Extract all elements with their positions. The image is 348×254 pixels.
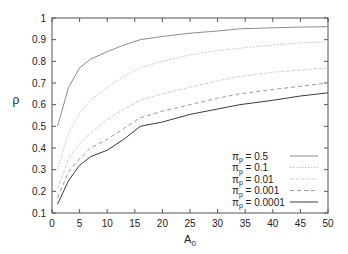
x-tick-label: 50 — [322, 218, 334, 229]
series-line-4 — [58, 93, 329, 205]
x-tick-label: 40 — [267, 218, 279, 229]
legend-value: = 0.1 — [243, 162, 269, 173]
plot-frame — [52, 18, 328, 213]
x-tick-label: 10 — [102, 218, 114, 229]
series-line-3 — [58, 83, 329, 198]
y-tick-label: 0.9 — [32, 34, 46, 45]
y-tick-label: 0.7 — [32, 78, 46, 89]
y-tick-label: 0.8 — [32, 56, 46, 67]
y-axis-label: ρ — [13, 93, 20, 107]
x-tick-label: 5 — [77, 218, 83, 229]
chart-container: 051015202530354045500.10.20.30.40.50.60.… — [0, 0, 348, 254]
legend-value: = 0.0001 — [243, 197, 285, 208]
x-axis-label: A0 — [184, 233, 196, 248]
x-axis-label-subscript: 0 — [191, 239, 196, 248]
x-tick-label: 25 — [184, 218, 196, 229]
series-line-2 — [58, 68, 329, 189]
x-tick-label: 45 — [295, 218, 307, 229]
series-lines — [58, 27, 329, 205]
y-tick-label: 0.1 — [32, 208, 46, 219]
legend-value: = 0.01 — [243, 174, 274, 185]
legend-value: = 0.5 — [243, 151, 269, 162]
x-tick-label: 35 — [240, 218, 252, 229]
x-tick-label: 20 — [157, 218, 169, 229]
y-tick-label: 0.6 — [32, 99, 46, 110]
line-chart: 051015202530354045500.10.20.30.40.50.60.… — [0, 0, 348, 254]
axes: 051015202530354045500.10.20.30.40.50.60.… — [32, 13, 334, 230]
legend-label-4: πp = 0.0001 — [232, 197, 285, 211]
x-tick-label: 30 — [212, 218, 224, 229]
y-tick-label: 0.5 — [32, 121, 46, 132]
x-tick-label: 15 — [129, 218, 141, 229]
legend: πp = 0.5πp = 0.1πp = 0.01πp = 0.001πp = … — [232, 151, 318, 211]
y-tick-label: 0.3 — [32, 164, 46, 175]
series-line-0 — [58, 27, 329, 127]
legend-value: = 0.001 — [243, 185, 280, 196]
y-tick-label: 0.4 — [32, 143, 46, 154]
x-tick-label: 0 — [49, 218, 55, 229]
y-tick-label: 1 — [40, 13, 46, 24]
series-line-1 — [58, 42, 329, 170]
y-tick-label: 0.2 — [32, 186, 46, 197]
